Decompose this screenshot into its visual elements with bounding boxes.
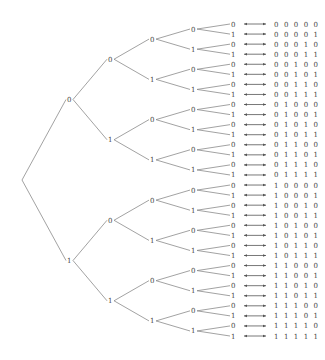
- node-label-1: 1: [191, 46, 195, 54]
- tree-edge: [197, 69, 230, 74]
- node-label-0: 0: [231, 81, 235, 89]
- binary-code: 1 1 1 1 0: [274, 322, 320, 330]
- binary-tree-diagram: 0101010101010101010101010101010101010101…: [0, 0, 325, 360]
- tree-edge: [156, 29, 190, 39]
- double-headed-arrow-icon: [244, 294, 266, 297]
- binary-code: 0 1 1 0 1: [274, 151, 320, 159]
- node-label-0: 0: [191, 227, 195, 235]
- node-label-0: 0: [231, 161, 235, 169]
- code-row: 1 0 0 1 1: [244, 212, 320, 220]
- binary-code: 1 1 0 0 0: [274, 262, 320, 270]
- double-headed-arrow-icon: [244, 305, 266, 308]
- tree-edge: [197, 271, 230, 276]
- double-headed-arrow-icon: [244, 284, 266, 287]
- tree-edge: [114, 220, 149, 240]
- tree-edge: [197, 29, 230, 34]
- binary-code: 1 1 1 0 1: [274, 312, 320, 320]
- code-row: 0 1 0 0 0: [244, 101, 320, 109]
- double-headed-arrow-icon: [244, 214, 266, 217]
- tree-edge: [22, 99, 66, 180]
- node-label-0: 0: [191, 267, 195, 275]
- double-headed-arrow-icon: [244, 93, 266, 96]
- code-row: 0 0 0 0 0: [244, 21, 320, 29]
- tree-edge: [197, 306, 230, 311]
- binary-code: 1 0 0 0 0: [274, 182, 320, 190]
- node-label-1: 1: [108, 136, 112, 144]
- double-headed-arrow-icon: [244, 43, 266, 46]
- tree-svg: 0101010101010101010101010101010101010101…: [0, 0, 325, 360]
- binary-code: 1 0 1 0 1: [274, 232, 320, 240]
- binary-code: 0 0 0 1 0: [274, 41, 320, 49]
- double-headed-arrow-icon: [244, 174, 266, 177]
- code-row: 0 1 1 0 1: [244, 151, 320, 159]
- node-label-1: 1: [231, 192, 235, 200]
- code-row: 1 1 1 0 0: [244, 302, 320, 310]
- tree-edge: [197, 291, 230, 296]
- node-label-1: 1: [231, 151, 235, 159]
- tree-edge: [114, 120, 149, 140]
- tree-edge: [197, 24, 230, 29]
- tree-edge: [197, 150, 230, 155]
- node-label-1: 1: [231, 272, 235, 280]
- double-headed-arrow-icon: [244, 83, 266, 86]
- node-label-0: 0: [191, 26, 195, 34]
- tree-edge: [156, 200, 190, 210]
- tree-edge: [156, 321, 190, 331]
- tree-edge: [73, 59, 107, 99]
- tree-edge: [156, 240, 190, 250]
- tree-edge: [197, 311, 230, 316]
- code-row: 0 0 1 1 1: [244, 91, 320, 99]
- node-label-0: 0: [67, 96, 71, 104]
- binary-code: 1 0 1 0 0: [274, 222, 320, 230]
- binary-code: 1 1 1 1 1: [274, 333, 320, 341]
- code-row: 0 0 1 0 1: [244, 71, 320, 79]
- node-label-1: 1: [191, 287, 195, 295]
- node-label-1: 1: [231, 71, 235, 79]
- code-row: 1 0 0 1 0: [244, 202, 320, 210]
- node-label-1: 1: [191, 86, 195, 94]
- tree-edge: [156, 120, 190, 130]
- tree-edge: [156, 79, 190, 89]
- tree-edge: [197, 210, 230, 215]
- double-headed-arrow-icon: [244, 274, 266, 277]
- tree-edge: [197, 130, 230, 135]
- tree-edge: [156, 230, 190, 240]
- node-label-0: 0: [231, 282, 235, 290]
- binary-code: 0 1 0 0 1: [274, 111, 320, 119]
- binary-code: 0 1 1 0 0: [274, 141, 320, 149]
- binary-code: 0 0 1 0 1: [274, 71, 320, 79]
- node-label-1: 1: [191, 247, 195, 255]
- tree-edge: [156, 150, 190, 160]
- tree-edge: [197, 225, 230, 230]
- tree-edge: [156, 39, 190, 49]
- node-label-1: 1: [191, 126, 195, 134]
- tree-edge: [197, 286, 230, 291]
- tree-edge: [197, 110, 230, 115]
- code-row: 0 0 0 0 1: [244, 31, 320, 39]
- code-row: 0 1 0 0 1: [244, 111, 320, 119]
- node-label-0: 0: [231, 302, 235, 310]
- tree-edge: [197, 145, 230, 150]
- double-headed-arrow-icon: [244, 315, 266, 318]
- tree-edge: [197, 165, 230, 170]
- tree-edge: [197, 89, 230, 94]
- double-headed-arrow-icon: [244, 224, 266, 227]
- code-row: 0 0 0 1 0: [244, 41, 320, 49]
- code-row: 0 0 1 1 0: [244, 81, 320, 89]
- tree-edge: [197, 205, 230, 210]
- code-row: 1 0 0 0 1: [244, 192, 320, 200]
- double-headed-arrow-icon: [244, 113, 266, 116]
- double-headed-arrow-icon: [244, 73, 266, 76]
- code-row: 0 1 0 1 1: [244, 131, 320, 139]
- double-headed-arrow-icon: [244, 103, 266, 106]
- tree-edge: [114, 39, 149, 59]
- double-headed-arrow-icon: [244, 254, 266, 257]
- tree-edge: [197, 266, 230, 271]
- binary-code: 0 1 0 1 0: [274, 121, 320, 129]
- binary-code: 0 0 0 0 1: [274, 31, 320, 39]
- binary-code: 1 1 0 1 1: [274, 292, 320, 300]
- tree-edge: [114, 301, 149, 321]
- node-label-1: 1: [191, 207, 195, 215]
- double-headed-arrow-icon: [244, 335, 266, 338]
- code-row: 1 1 0 0 1: [244, 272, 320, 280]
